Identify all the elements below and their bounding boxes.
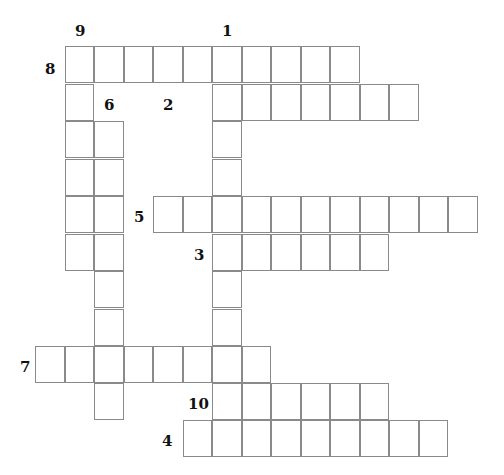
grid-cell[interactable]	[212, 121, 242, 159]
clue-number-10: 10	[188, 395, 209, 413]
grid-cell[interactable]	[94, 46, 124, 84]
grid-cell[interactable]	[65, 346, 95, 384]
grid-cell[interactable]	[94, 196, 124, 234]
grid-cell[interactable]	[65, 84, 95, 122]
grid-cell[interactable]	[419, 420, 449, 458]
clue-number-8: 8	[45, 60, 55, 78]
clue-number-2: 2	[163, 96, 173, 114]
grid-cell[interactable]	[389, 420, 419, 458]
clue-number-6: 6	[104, 96, 114, 114]
grid-cell[interactable]	[301, 46, 331, 84]
grid-cell[interactable]	[242, 346, 272, 384]
grid-cell[interactable]	[389, 84, 419, 122]
grid-cell[interactable]	[65, 121, 95, 159]
grid-cell[interactable]	[35, 346, 65, 384]
grid-cell[interactable]	[212, 196, 242, 234]
grid-cell[interactable]	[242, 84, 272, 122]
grid-cell[interactable]	[65, 234, 95, 272]
grid-cell[interactable]	[271, 46, 301, 84]
grid-cell[interactable]	[212, 234, 242, 272]
grid-cell[interactable]	[65, 196, 95, 234]
grid-cell[interactable]	[301, 420, 331, 458]
grid-cell[interactable]	[183, 196, 213, 234]
grid-cell[interactable]	[242, 420, 272, 458]
grid-cell[interactable]	[330, 383, 360, 421]
grid-cell[interactable]	[301, 383, 331, 421]
clue-number-9: 9	[75, 22, 85, 40]
clue-number-7: 7	[20, 358, 30, 376]
grid-cell[interactable]	[212, 309, 242, 347]
grid-cell[interactable]	[330, 84, 360, 122]
grid-cell[interactable]	[242, 383, 272, 421]
grid-cell[interactable]	[271, 196, 301, 234]
grid-cell[interactable]	[330, 420, 360, 458]
grid-cell[interactable]	[301, 196, 331, 234]
grid-cell[interactable]	[271, 383, 301, 421]
grid-cell[interactable]	[212, 159, 242, 197]
grid-cell[interactable]	[212, 346, 242, 384]
grid-cell[interactable]	[360, 234, 390, 272]
grid-cell[interactable]	[271, 420, 301, 458]
grid-cell[interactable]	[212, 383, 242, 421]
grid-cell[interactable]	[124, 46, 154, 84]
grid-cell[interactable]	[330, 46, 360, 84]
grid-cell[interactable]	[242, 196, 272, 234]
grid-cell[interactable]	[183, 46, 213, 84]
grid-cell[interactable]	[94, 234, 124, 272]
grid-cell[interactable]	[360, 84, 390, 122]
grid-cell[interactable]	[65, 46, 95, 84]
grid-cell[interactable]	[124, 346, 154, 384]
grid-cell[interactable]	[330, 196, 360, 234]
grid-cell[interactable]	[94, 346, 124, 384]
grid-cell[interactable]	[448, 196, 478, 234]
grid-cell[interactable]	[153, 196, 183, 234]
grid-cell[interactable]	[360, 196, 390, 234]
clue-number-3: 3	[194, 246, 204, 264]
grid-cell[interactable]	[94, 271, 124, 309]
grid-cell[interactable]	[94, 159, 124, 197]
clue-number-1: 1	[222, 22, 232, 40]
grid-cell[interactable]	[183, 346, 213, 384]
grid-cell[interactable]	[301, 84, 331, 122]
grid-cell[interactable]	[360, 383, 390, 421]
grid-cell[interactable]	[242, 46, 272, 84]
clue-number-5: 5	[134, 208, 144, 226]
grid-cell[interactable]	[212, 46, 242, 84]
grid-cell[interactable]	[301, 234, 331, 272]
grid-cell[interactable]	[153, 346, 183, 384]
grid-cell[interactable]	[212, 84, 242, 122]
grid-cell[interactable]	[271, 234, 301, 272]
grid-cell[interactable]	[94, 309, 124, 347]
grid-cell[interactable]	[65, 159, 95, 197]
grid-cell[interactable]	[212, 271, 242, 309]
grid-cell[interactable]	[94, 121, 124, 159]
grid-cell[interactable]	[389, 196, 419, 234]
grid-cell[interactable]	[153, 46, 183, 84]
grid-cell[interactable]	[330, 234, 360, 272]
grid-cell[interactable]	[212, 420, 242, 458]
grid-cell[interactable]	[271, 84, 301, 122]
grid-cell[interactable]	[183, 420, 213, 458]
grid-cell[interactable]	[360, 420, 390, 458]
grid-cell[interactable]	[242, 234, 272, 272]
clue-number-4: 4	[162, 432, 172, 450]
grid-cell[interactable]	[419, 196, 449, 234]
grid-cell[interactable]	[94, 383, 124, 421]
